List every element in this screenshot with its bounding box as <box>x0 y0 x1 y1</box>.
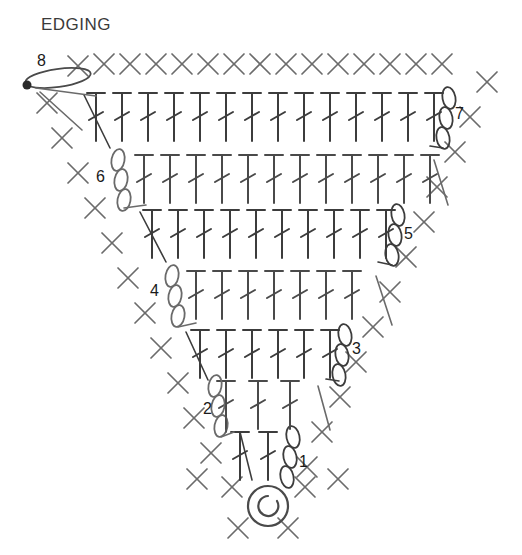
row-7-turning-chain <box>435 86 458 150</box>
row-label-4: 4 <box>150 282 159 299</box>
magic-ring-icon <box>248 486 288 526</box>
row-6-turning-chain <box>110 148 133 212</box>
crochet-chart-root: EDGING <box>0 0 522 555</box>
row-label-8: 8 <box>37 52 46 69</box>
row-4-group <box>164 264 392 328</box>
start-dot-icon <box>23 81 32 90</box>
row-5-turning-chain <box>384 203 407 267</box>
row-6-group <box>110 148 448 212</box>
chart-title: EDGING <box>41 15 111 34</box>
row-label-7: 7 <box>455 105 464 122</box>
row-4-turning-chain <box>164 264 187 328</box>
row-1-group <box>231 425 302 489</box>
row-label-2: 2 <box>203 400 212 417</box>
row-label-3: 3 <box>352 340 361 357</box>
edging-top-group <box>68 54 452 76</box>
row-5-group <box>140 203 406 267</box>
stitch-chart-svg: EDGING <box>0 0 522 555</box>
row-label-6: 6 <box>96 168 105 185</box>
row-label-5: 5 <box>404 225 413 242</box>
row-label-1: 1 <box>299 453 308 470</box>
row-7-group <box>84 86 457 150</box>
row-2-group <box>207 374 330 438</box>
edging-left-group <box>37 93 221 463</box>
